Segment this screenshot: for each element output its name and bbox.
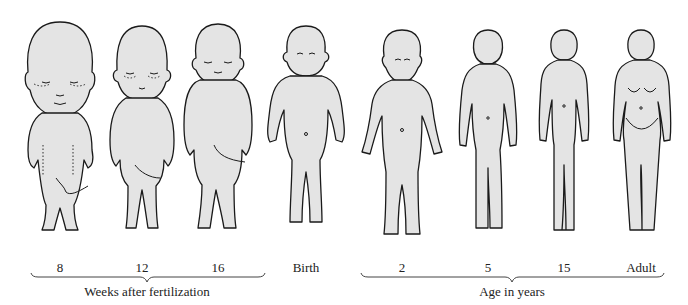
- body-proportion-figures: [0, 0, 688, 250]
- figure-age-15: [539, 30, 589, 230]
- figure-week-16: [184, 24, 252, 228]
- figure-age-2: [362, 30, 442, 234]
- figure-week-8: [25, 22, 95, 230]
- figure-birth: [268, 26, 345, 222]
- brace-prenatal: [31, 273, 265, 282]
- group-label-postnatal: Age in years: [479, 284, 545, 300]
- figure-age-5: [459, 30, 517, 228]
- figure-adult: [613, 30, 671, 230]
- brace-postnatal: [361, 273, 664, 282]
- group-label-prenatal: Weeks after fertilization: [84, 284, 209, 300]
- figure-week-12: [110, 26, 174, 228]
